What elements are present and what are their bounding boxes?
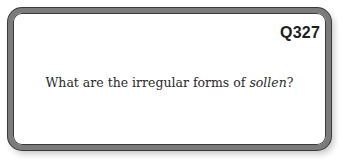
flashcard: Q327 What are the irregular forms of sol…: [8, 8, 331, 150]
question-suffix: ?: [287, 75, 294, 90]
question-emphasis: sollen: [249, 75, 286, 90]
question-text: What are the irregular forms of sollen?: [13, 75, 326, 90]
question-prefix: What are the irregular forms of: [46, 75, 250, 90]
question-number: Q327: [280, 24, 320, 42]
